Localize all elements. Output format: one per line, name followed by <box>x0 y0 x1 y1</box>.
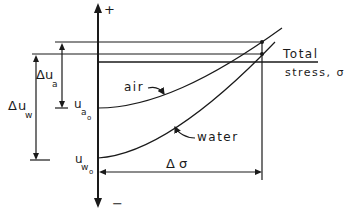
axis-arrow-down-icon <box>94 198 102 208</box>
delta-sigma-arrow-right-icon <box>255 169 262 175</box>
delta-sigma-label: Δ σ <box>166 156 187 171</box>
delta-uw-arrow-down-icon <box>33 153 39 160</box>
delta-uw-sub: w <box>25 110 32 120</box>
axis-arrow-up-icon <box>94 3 102 13</box>
uw0-label-sub: w <box>81 162 88 172</box>
air-curve <box>98 28 282 108</box>
delta-ua-arrow-up-icon <box>59 43 65 50</box>
delta-sigma-arrow-left-icon <box>99 169 106 175</box>
total-stress-label-line1: Total <box>282 47 319 61</box>
air-label: air <box>124 80 144 94</box>
delta-uw-delta: Δ <box>8 98 17 113</box>
pore-pressure-diagram: + − Total stress, σ air water u a o u w … <box>0 0 349 214</box>
delta-ua-delta: Δ <box>36 67 45 82</box>
uw0-label-subsub: o <box>89 168 93 176</box>
water-leader-arrow <box>175 127 195 138</box>
delta-uw-arrow-up-icon <box>33 55 39 62</box>
delta-ua-arrow-down-icon <box>59 101 65 108</box>
ua0-label-sub: a <box>81 107 87 117</box>
axis-negative-label: − <box>112 196 123 211</box>
total-stress-label-line2: stress, σ <box>285 66 345 79</box>
water-curve <box>98 42 275 158</box>
delta-ua-sub: a <box>52 79 58 89</box>
air-leader-arrow <box>148 87 164 94</box>
axis-positive-label: + <box>104 2 115 17</box>
water-label: water <box>197 130 239 144</box>
ua0-label-subsub: o <box>87 114 91 122</box>
